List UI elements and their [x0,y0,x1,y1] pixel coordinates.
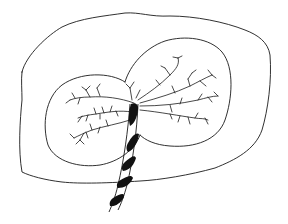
outer-outline [20,13,271,183]
vessels [66,56,218,144]
umbilical-cord [109,103,139,212]
left-lobe [45,75,140,166]
right-lobe [125,38,231,146]
drawing-canvas: Pen line drawing of a two-lobed placenta… [0,0,288,224]
placenta-drawing [0,0,288,224]
